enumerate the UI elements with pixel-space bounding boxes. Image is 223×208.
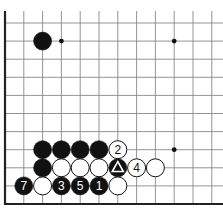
stone-disc	[34, 32, 52, 50]
move-number: 1	[96, 179, 103, 193]
black-stone[interactable]	[52, 141, 70, 159]
black-stone[interactable]	[34, 141, 52, 159]
move-number: 7	[20, 179, 27, 193]
stone-disc	[109, 177, 127, 195]
white-stone-move-2[interactable]: 2	[109, 141, 127, 159]
stone-disc	[90, 159, 108, 177]
white-stone[interactable]	[52, 159, 70, 177]
black-stone[interactable]	[90, 141, 108, 159]
black-stone[interactable]	[71, 141, 89, 159]
star-point	[172, 39, 177, 44]
stone-disc	[90, 141, 108, 159]
black-stone[interactable]	[34, 159, 52, 177]
white-stone[interactable]	[90, 159, 108, 177]
white-stone[interactable]	[71, 159, 89, 177]
black-stone[interactable]	[34, 32, 52, 50]
black-stone-move-5[interactable]: 5	[71, 177, 89, 195]
stone-disc	[52, 141, 70, 159]
black-stone-move-7[interactable]: 7	[15, 177, 33, 195]
stone-disc	[71, 159, 89, 177]
small-dot-mark	[59, 39, 64, 44]
stone-disc	[146, 159, 164, 177]
black-stone-move-1[interactable]: 1	[90, 177, 108, 195]
move-number: 5	[77, 179, 84, 193]
white-stone[interactable]	[146, 159, 164, 177]
move-number: 3	[58, 179, 65, 193]
move-number: 2	[114, 143, 121, 157]
black-stone[interactable]	[109, 159, 127, 177]
white-stone[interactable]	[34, 177, 52, 195]
star-point	[172, 147, 177, 152]
move-number: 4	[133, 161, 140, 175]
go-board[interactable]: 247351	[0, 0, 223, 208]
white-stone-move-4[interactable]: 4	[128, 159, 146, 177]
stone-disc	[52, 159, 70, 177]
stone-disc	[71, 141, 89, 159]
black-stone-move-3[interactable]: 3	[52, 177, 70, 195]
stone-disc	[34, 177, 52, 195]
stone-disc	[34, 159, 52, 177]
stone-disc	[34, 141, 52, 159]
white-stone[interactable]	[109, 177, 127, 195]
